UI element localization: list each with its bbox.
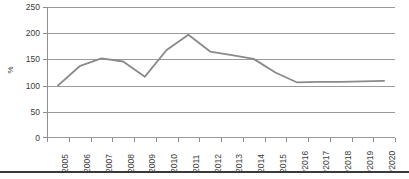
y-tick-label: 150 — [12, 55, 40, 64]
y-tick-label: 250 — [12, 3, 40, 12]
x-tick-mark — [243, 138, 244, 142]
plot-area — [47, 7, 395, 138]
y-tick-label: 0 — [12, 134, 40, 143]
x-tick-mark — [373, 138, 374, 142]
x-tick-mark — [112, 138, 113, 142]
x-tick-mark — [199, 138, 200, 142]
x-tick-mark — [69, 138, 70, 142]
x-tick-label: *2019 — [366, 151, 375, 173]
x-tick-mark — [156, 138, 157, 142]
x-tick-mark — [91, 138, 92, 142]
y-axis-tick-labels: 250 200 150 100 50 0 — [10, 0, 40, 179]
chart-figure: % 250 200 150 100 50 0 — [0, 0, 409, 179]
x-tick-mark — [352, 138, 353, 142]
x-tick-mark — [134, 138, 135, 142]
x-tick-mark — [178, 138, 179, 142]
line-chart: % 250 200 150 100 50 0 — [0, 0, 409, 179]
x-tick-label: *2018 — [344, 151, 353, 173]
y-tick-label: 100 — [12, 82, 40, 91]
bottom-divider — [0, 171, 409, 173]
x-tick-label: *2017 — [322, 151, 331, 173]
x-tick-mark — [395, 138, 396, 142]
y-tick-label: 50 — [12, 108, 40, 117]
x-tick-mark — [286, 138, 287, 142]
x-tick-mark — [47, 138, 48, 142]
x-tick-mark — [330, 138, 331, 142]
y-tick-label: 200 — [12, 29, 40, 38]
data-series-line — [47, 7, 395, 138]
x-tick-label: *2016 — [301, 151, 310, 173]
x-tick-label: *2020 — [388, 151, 397, 173]
x-tick-mark — [265, 138, 266, 142]
x-tick-mark — [308, 138, 309, 142]
x-tick-mark — [221, 138, 222, 142]
